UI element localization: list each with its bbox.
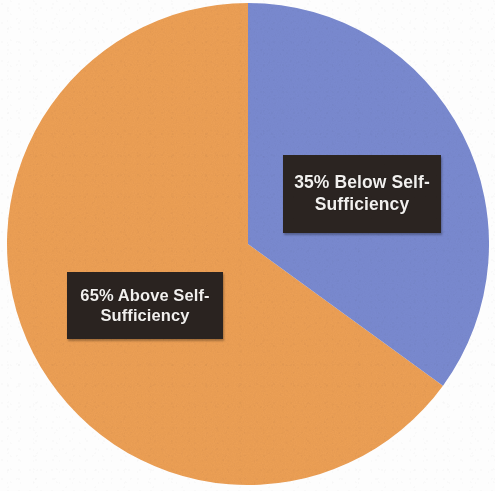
- pie-chart-figure: 35% Below Self- Sufficiency 65% Above Se…: [0, 0, 495, 491]
- pie-chart-canvas: [0, 0, 495, 491]
- data-label-above-text: 65% Above Self- Sufficiency: [73, 285, 217, 325]
- data-label-below-line2: Sufficiency: [315, 194, 409, 214]
- data-label-below-text: 35% Below Self- Sufficiency: [289, 172, 435, 215]
- pie-chart-svg: [0, 0, 495, 491]
- data-label-above-line1: 65% Above Self-: [80, 286, 209, 304]
- data-label-below-line1: 35% Below Self-: [294, 172, 430, 192]
- data-label-above-self-sufficiency: 65% Above Self- Sufficiency: [67, 272, 223, 339]
- data-label-above-line2: Sufficiency: [100, 306, 189, 324]
- data-label-below-self-sufficiency: 35% Below Self- Sufficiency: [283, 155, 441, 233]
